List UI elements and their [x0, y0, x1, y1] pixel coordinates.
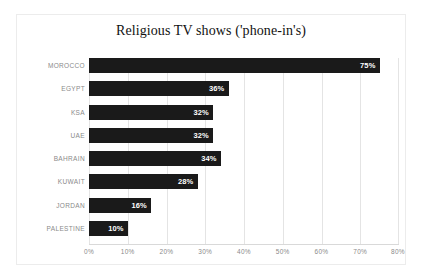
- x-axis-tick-label: 30%: [185, 248, 225, 255]
- x-axis-tick-label: 50%: [263, 248, 303, 255]
- plot-area: 75% 36% 32% 32% 34%: [89, 58, 399, 244]
- y-axis-label: PALESTINE: [15, 221, 85, 236]
- bar-value-label: 10%: [108, 221, 124, 236]
- bar-row: 32%: [89, 128, 399, 143]
- y-axis-label: KUWAIT: [15, 174, 85, 189]
- bar[interactable]: 28%: [89, 174, 198, 189]
- bar-row: 16%: [89, 198, 399, 213]
- y-axis-label: JORDAN: [15, 198, 85, 213]
- chart-title: Religious TV shows ('phone-in's): [17, 23, 405, 39]
- y-axis-label: KSA: [15, 105, 85, 120]
- y-axis-label: EGYPT: [15, 81, 85, 96]
- x-axis-tick-labels: 0% 10% 20% 30% 40% 50% 60% 70% 80%: [89, 248, 399, 260]
- bar-value-label: 16%: [131, 198, 147, 213]
- x-axis-tick-label: 70%: [340, 248, 380, 255]
- x-axis-tick-label: 10%: [108, 248, 148, 255]
- bar[interactable]: 32%: [89, 128, 213, 143]
- y-axis-label: UAE: [15, 128, 85, 143]
- bar[interactable]: 34%: [89, 151, 221, 166]
- x-axis-tick-label: 0%: [69, 248, 109, 255]
- y-axis-category-labels: MOROCCO EGYPT KSA UAE BAHRAIN KUWAIT JOR…: [17, 58, 85, 244]
- bar[interactable]: 16%: [89, 198, 151, 213]
- bar-row: 28%: [89, 174, 399, 189]
- x-axis-tick-label: 40%: [224, 248, 264, 255]
- x-axis-tick-label: 80%: [378, 248, 418, 255]
- bar-value-label: 32%: [193, 105, 209, 120]
- bar-value-label: 28%: [178, 174, 194, 189]
- x-axis-line: [89, 244, 399, 245]
- bar-row: 75%: [89, 58, 399, 73]
- bar-row: 36%: [89, 81, 399, 96]
- bar-row: 10%: [89, 221, 399, 236]
- bar-row: 34%: [89, 151, 399, 166]
- y-axis-label: MOROCCO: [15, 58, 85, 73]
- bar[interactable]: 32%: [89, 105, 213, 120]
- bar[interactable]: 36%: [89, 81, 229, 96]
- bar-value-label: 32%: [193, 128, 209, 143]
- x-axis-tick-label: 20%: [147, 248, 187, 255]
- bar-value-label: 36%: [209, 81, 225, 96]
- x-axis-tick-label: 60%: [302, 248, 342, 255]
- y-axis-label: BAHRAIN: [15, 151, 85, 166]
- bar-value-label: 34%: [201, 151, 217, 166]
- chart-container: Religious TV shows ('phone-in's) MOROCCO…: [16, 14, 406, 265]
- bar-row: 32%: [89, 105, 399, 120]
- bar[interactable]: 10%: [89, 221, 128, 236]
- bar-value-label: 75%: [360, 58, 376, 73]
- bar[interactable]: 75%: [89, 58, 380, 73]
- bars-layer: 75% 36% 32% 32% 34%: [89, 58, 399, 244]
